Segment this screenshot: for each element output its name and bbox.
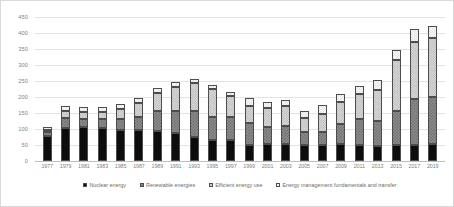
bar-column[interactable] [240, 17, 258, 161]
bar-segment [153, 93, 162, 112]
bar-column[interactable] [424, 17, 442, 161]
bar-column[interactable] [93, 17, 111, 161]
chart-card: 050100150200250300350400450 197719791981… [0, 0, 454, 207]
bar-stack [43, 127, 52, 161]
chart-legend: Nuclear energyRenewable energiesEfficien… [35, 178, 445, 192]
bar-stack [134, 98, 143, 161]
legend-swatch-icon [209, 183, 213, 187]
bar-column[interactable] [277, 17, 295, 161]
bar-segment [153, 131, 162, 161]
x-tick-label: 2015 [387, 161, 405, 175]
bar-stack [355, 86, 364, 161]
y-tick-label: 150 [18, 110, 28, 116]
bar-column[interactable] [167, 17, 185, 161]
bar-column[interactable] [222, 17, 240, 161]
x-tick-label: 1977 [38, 161, 56, 175]
bar-column[interactable] [75, 17, 93, 161]
bar-segment [336, 124, 345, 145]
bar-segment [392, 60, 401, 111]
bar-segment [373, 121, 382, 146]
bar-column[interactable] [203, 17, 221, 161]
bar-segment [245, 106, 254, 123]
x-tick-label: 2007 [313, 161, 331, 175]
bar-column[interactable] [38, 17, 56, 161]
bar-segment [134, 117, 143, 130]
bar-segment [79, 119, 88, 128]
legend-item[interactable]: Efficient energy use [209, 182, 262, 188]
bar-segment [410, 99, 419, 144]
bar-stack [263, 102, 272, 161]
legend-item[interactable]: Renewable energies [140, 182, 195, 188]
bar-segment [98, 119, 107, 128]
bar-segment [116, 109, 125, 119]
bar-segment [373, 90, 382, 121]
bar-segment [171, 87, 180, 111]
y-tick-label: 250 [18, 78, 28, 84]
bar-column[interactable] [258, 17, 276, 161]
bar-column[interactable] [111, 17, 129, 161]
y-tick-label: 0 [25, 158, 28, 164]
bar-stack [208, 85, 217, 161]
x-tick-label: 2011 [350, 161, 368, 175]
bar-segment [171, 111, 180, 134]
bar-segment [300, 118, 309, 132]
bar-column[interactable] [405, 17, 423, 161]
bar-segment [410, 42, 419, 100]
x-tick-label: 2017 [405, 161, 423, 175]
bar-segment [318, 114, 327, 131]
bar-column[interactable] [130, 17, 148, 161]
bar-segment [300, 132, 309, 145]
x-axis-labels: 1977197919811983198519871989199119931995… [35, 161, 445, 175]
legend-item-label: Nuclear energy [89, 182, 126, 188]
bar-segment [226, 140, 235, 161]
bar-stack [171, 82, 180, 161]
bar-stack [392, 50, 401, 161]
bar-segment [355, 86, 364, 95]
legend-item-label: Efficient energy use [215, 182, 262, 188]
bar-stack [300, 111, 309, 161]
bar-segment [355, 94, 364, 119]
bar-stack [98, 107, 107, 161]
bar-column[interactable] [148, 17, 166, 161]
bar-column[interactable] [350, 17, 368, 161]
x-tick-label: 1985 [111, 161, 129, 175]
legend-item[interactable]: Nuclear energy [83, 182, 126, 188]
legend-item-label: Energy management fundamentals and trans… [282, 182, 396, 188]
bar-column[interactable] [313, 17, 331, 161]
x-tick-label: 1997 [222, 161, 240, 175]
bar-column[interactable] [368, 17, 386, 161]
bar-stack [153, 88, 162, 161]
bar-stack [428, 26, 437, 161]
bar-column[interactable] [185, 17, 203, 161]
bar-stack [373, 80, 382, 161]
bar-segment [336, 94, 345, 103]
bar-segment [355, 119, 364, 145]
bar-segment [336, 144, 345, 161]
bar-stack [318, 105, 327, 161]
y-tick-label: 400 [18, 30, 28, 36]
bar-stack [281, 100, 290, 161]
bar-segment [373, 80, 382, 90]
x-tick-label: 2009 [332, 161, 350, 175]
bar-segment [79, 127, 88, 161]
bar-segment [392, 50, 401, 60]
bar-column[interactable] [56, 17, 74, 161]
bar-column[interactable] [387, 17, 405, 161]
y-tick-label: 50 [22, 142, 28, 148]
x-tick-label: 1991 [167, 161, 185, 175]
bar-segment [428, 38, 437, 98]
x-tick-label: 2001 [258, 161, 276, 175]
bar-column[interactable] [295, 17, 313, 161]
bar-segment [428, 26, 437, 38]
bar-segment [263, 127, 272, 144]
bar-segment [410, 29, 419, 41]
bar-segment [171, 133, 180, 161]
bar-column[interactable] [332, 17, 350, 161]
legend-swatch-icon [276, 183, 280, 187]
bar-stack [79, 107, 88, 161]
bar-segment [318, 145, 327, 161]
x-tick-label: 2019 [424, 161, 442, 175]
bar-segment [226, 117, 235, 140]
bar-segment [208, 89, 217, 116]
legend-item[interactable]: Energy management fundamentals and trans… [276, 182, 396, 188]
